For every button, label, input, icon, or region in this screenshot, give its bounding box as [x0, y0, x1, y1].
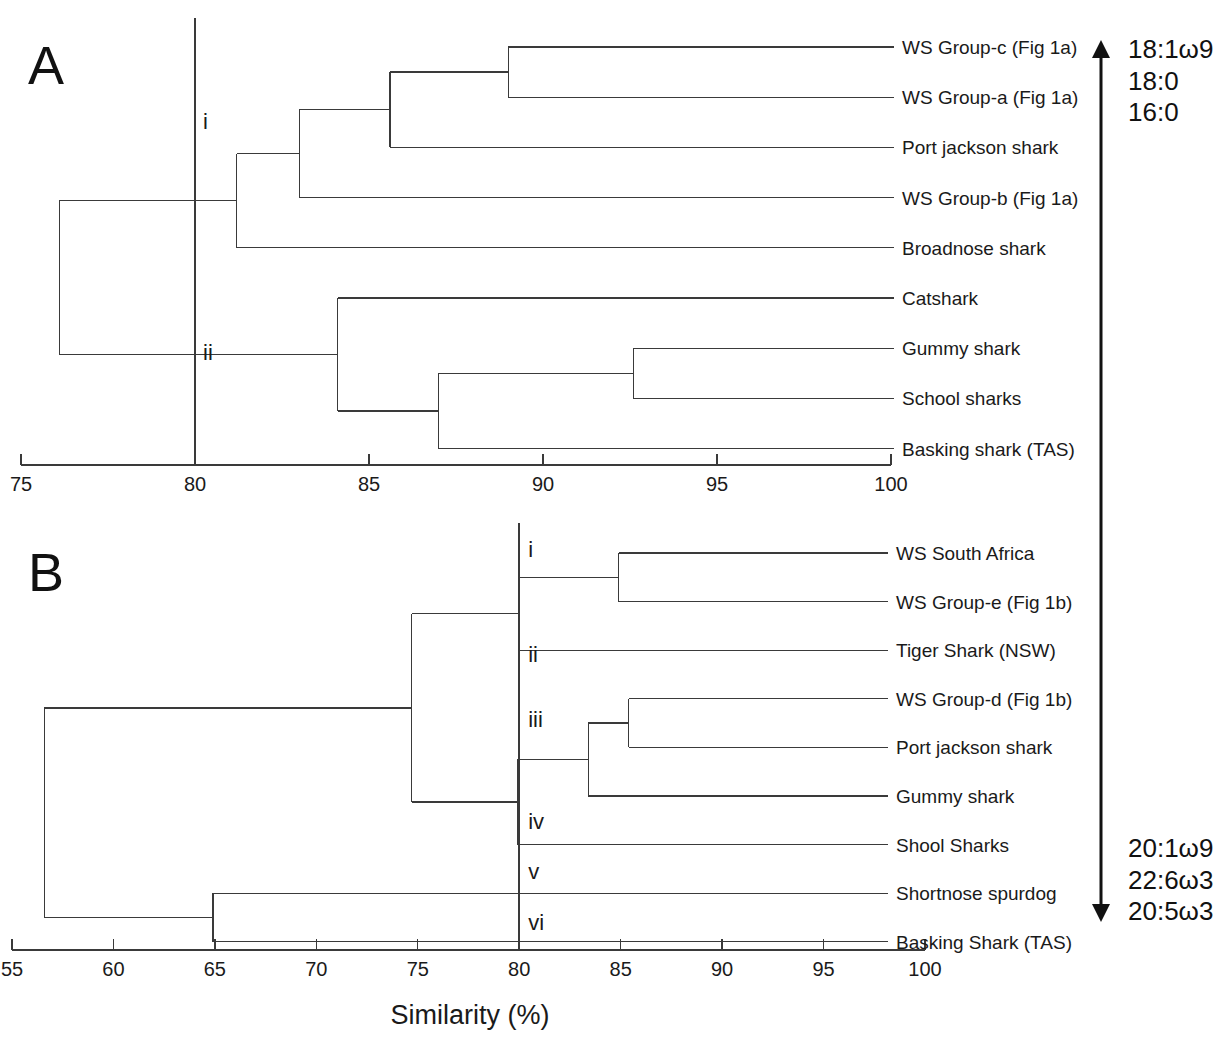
fatty-acid-label: 18:0	[1128, 66, 1213, 98]
panel-b-tick-label: 55	[1, 959, 23, 979]
arrow-head-down-icon	[1092, 904, 1110, 922]
fatty-acid-label: 20:1ω9	[1128, 833, 1213, 865]
panel-b-leaf-label: Shortnose spurdog	[896, 884, 1057, 903]
fatty-acid-list-top: 18:1ω918:016:0	[1128, 34, 1213, 129]
axis-title: Similarity (%)	[0, 1000, 940, 1031]
panel-a-leaf-label: Catshark	[902, 289, 978, 308]
panel-b-leaf-label: Port jackson shark	[896, 738, 1052, 757]
panel-b-node-label-ii: ii	[528, 644, 538, 666]
fatty-acid-label: 22:6ω3	[1128, 865, 1213, 897]
panel-a-leaf-label: WS Group-a (Fig 1a)	[902, 88, 1078, 107]
panel-b-node-label-iii: iii	[528, 709, 543, 731]
fatty-acid-label: 16:0	[1128, 97, 1213, 129]
dendrogram-figure: A B WS Group-c (Fig 1a)WS Group-a (Fig 1…	[0, 0, 1221, 1041]
panel-a-leaf-label: WS Group-b (Fig 1a)	[902, 188, 1078, 207]
panel-b-node-label-vi: vi	[528, 912, 544, 934]
panel-b-tick-label: 100	[908, 959, 941, 979]
panel-a-tick-label: 90	[532, 474, 554, 494]
panel-b-leaf-label: WS Group-d (Fig 1b)	[896, 689, 1072, 708]
panel-a-node-label-ii: ii	[203, 342, 213, 364]
panel-a-tick-label: 80	[184, 474, 206, 494]
panel-a-leaf-label: Gummy shark	[902, 339, 1020, 358]
panel-b-leaf-label: Tiger Shark (NSW)	[896, 641, 1056, 660]
panel-b-leaf-label: Basking Shark (TAS)	[896, 932, 1072, 951]
panel-a-leaf-label: Basking shark (TAS)	[902, 439, 1075, 458]
panel-a-leaf-label: Broadnose shark	[902, 238, 1046, 257]
panel-b-tick-label: 95	[812, 959, 834, 979]
panel-a-tick-label: 95	[706, 474, 728, 494]
panel-b-node-label-iv: iv	[528, 811, 544, 833]
panel-a-tick-label: 85	[358, 474, 380, 494]
fatty-acid-label: 18:1ω9	[1128, 34, 1213, 66]
panel-b-tick-label: 60	[102, 959, 124, 979]
panel-b-tick-label: 70	[305, 959, 327, 979]
panel-b-tick-label: 90	[711, 959, 733, 979]
fatty-acid-gradient-arrow	[1092, 40, 1110, 922]
fatty-acid-list-bottom: 20:1ω922:6ω320:5ω3	[1128, 833, 1213, 928]
panel-b-node-label-v: v	[528, 861, 539, 883]
fatty-acid-label: 20:5ω3	[1128, 896, 1213, 928]
panel-a-tick-label: 100	[874, 474, 907, 494]
panel-b-tick-label: 80	[508, 959, 530, 979]
panel-b-leaf-label: Shool Sharks	[896, 835, 1009, 854]
panel-a-leaf-label: Port jackson shark	[902, 138, 1058, 157]
panel-a-leaf-label: School sharks	[902, 389, 1021, 408]
panel-a-tick-label: 75	[10, 474, 32, 494]
panel-b-tick-label: 65	[204, 959, 226, 979]
panel-b-node-label-i: i	[528, 539, 533, 561]
panel-a-leaf-label: WS Group-c (Fig 1a)	[902, 38, 1077, 57]
arrow-head-up-icon	[1092, 40, 1110, 58]
panel-b-tick-label: 75	[407, 959, 429, 979]
panel-b-leaf-label: WS South Africa	[896, 544, 1034, 563]
panel-b-leaf-label: Gummy shark	[896, 787, 1014, 806]
panel-a-node-label-i: i	[203, 111, 208, 133]
panel-b-tick-label: 85	[610, 959, 632, 979]
panel-b-leaf-label: WS Group-e (Fig 1b)	[896, 592, 1072, 611]
